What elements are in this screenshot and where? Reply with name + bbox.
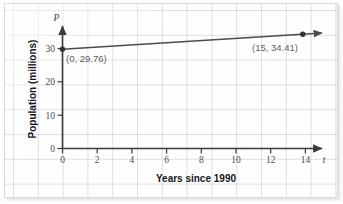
- x-tick-label-8: 8: [199, 155, 204, 165]
- y-axis-variable-label: P: [53, 13, 60, 23]
- x-tick-label-12: 12: [266, 155, 276, 165]
- x-tick-label-2: 2: [95, 155, 100, 165]
- chart-screenshot: 0 10 20 30 P 0 2 4 6 8 10 12: [0, 0, 343, 204]
- x-tick-label-10: 10: [231, 155, 241, 165]
- y-axis: 0 10 20 30 P: [46, 13, 63, 154]
- x-axis: 0 2 4 6 8 10 12 14 t: [60, 149, 326, 166]
- y-tick-label-20: 20: [46, 77, 56, 87]
- y-tick-label-30: 30: [46, 44, 56, 54]
- annotation-left-point: (0, 29.76): [66, 53, 107, 64]
- x-tick-label-4: 4: [130, 155, 135, 165]
- x-tick-label-0: 0: [60, 155, 65, 165]
- data-point-15-34-41: [300, 32, 305, 37]
- x-tick-label-14: 14: [301, 155, 311, 165]
- y-tick-label-0: 0: [50, 144, 55, 154]
- annotation-right-point: (15, 34.41): [252, 42, 298, 53]
- line-chart: 0 10 20 30 P 0 2 4 6 8 10 12: [0, 0, 343, 204]
- data-point-0-29-76: [60, 47, 65, 52]
- y-axis-title: Population (millions): [27, 40, 38, 139]
- x-axis-variable-label: t: [323, 155, 326, 165]
- x-tick-label-6: 6: [164, 155, 169, 165]
- y-tick-label-10: 10: [46, 111, 56, 121]
- x-axis-title: Years since 1990: [156, 173, 237, 184]
